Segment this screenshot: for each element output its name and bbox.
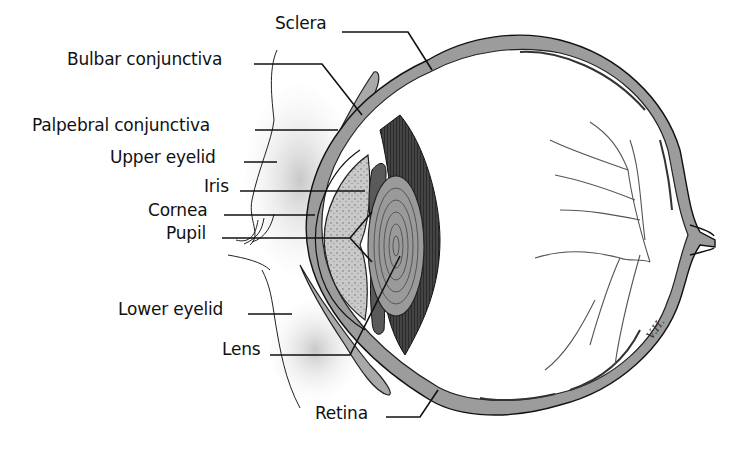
label-lens: Lens (222, 341, 260, 358)
label-bulbar-conjunctiva: Bulbar conjunctiva (67, 51, 222, 68)
lens (368, 176, 424, 316)
label-lower-eyelid: Lower eyelid (118, 301, 223, 318)
label-iris: Iris (204, 178, 229, 195)
label-cornea: Cornea (148, 202, 207, 219)
label-sclera: Sclera (275, 15, 327, 32)
label-retina: Retina (315, 405, 368, 422)
label-pupil: Pupil (166, 225, 206, 242)
eye-diagram: V.H. Sclera Bulbar conjunctiva Palpebral… (0, 0, 746, 456)
label-upper-eyelid: Upper eyelid (110, 149, 216, 166)
label-palpebral-conjunctiva: Palpebral conjunctiva (32, 117, 210, 134)
